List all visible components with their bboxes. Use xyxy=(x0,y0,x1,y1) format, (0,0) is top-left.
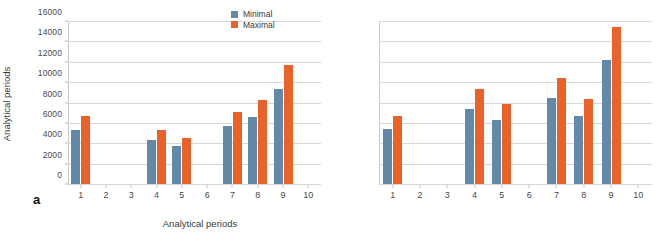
x-tick-mark-1 xyxy=(392,185,393,188)
y-tick-label-16000: 16000 xyxy=(38,7,62,17)
bar-maximal-8 xyxy=(584,99,593,184)
bar-minimal-1 xyxy=(71,130,80,185)
bar-minimal-1 xyxy=(383,129,392,184)
x-tick-label-7: 7 xyxy=(230,190,235,200)
x-tick-mark-7 xyxy=(232,185,233,188)
bar-maximal-4 xyxy=(157,130,166,184)
bar-group-5 xyxy=(488,21,515,184)
y-tick-label-2000: 2000 xyxy=(43,150,62,160)
chart-legend: Minimal Maximal xyxy=(231,10,275,29)
y-tick-label-14000: 14000 xyxy=(38,27,62,37)
bar-maximal-8 xyxy=(258,100,267,184)
bar-maximal-1 xyxy=(81,116,90,184)
x-tick-label-4: 4 xyxy=(154,190,159,200)
x-tick-mark-6 xyxy=(207,185,208,188)
x-axis-label-a: Analytical periods xyxy=(163,218,237,229)
panel-tag-a: a xyxy=(33,192,40,207)
bar-maximal-1 xyxy=(393,116,402,184)
x-tick-mark-9 xyxy=(611,185,612,188)
bar-group-4 xyxy=(461,21,488,184)
x-tick-label-5: 5 xyxy=(499,190,504,200)
x-tick-label-9: 9 xyxy=(281,190,286,200)
x-tick-mark-3 xyxy=(447,185,448,188)
x-tick-mark-2 xyxy=(419,185,420,188)
bar-group-8 xyxy=(570,21,597,184)
x-tick-mark-9 xyxy=(283,185,284,188)
legend-swatch-minimal-icon xyxy=(231,11,238,18)
y-tick-label-12000: 12000 xyxy=(38,48,62,58)
bar-group-5 xyxy=(169,21,194,184)
bar-maximal-9 xyxy=(284,65,293,184)
plot-area-a: 0200040006000800010000120001400016000 12… xyxy=(68,22,321,185)
bar-group-7 xyxy=(220,21,245,184)
x-tick-label-6: 6 xyxy=(527,190,532,200)
x-tick-label-2: 2 xyxy=(103,190,108,200)
x-tick-label-8: 8 xyxy=(581,190,586,200)
x-tick-mark-4 xyxy=(156,185,157,188)
y-tick-label-6000: 6000 xyxy=(43,109,62,119)
bar-group-9 xyxy=(270,21,295,184)
bar-group-10 xyxy=(296,21,321,184)
x-tick-mark-5 xyxy=(181,185,182,188)
legend-swatch-maximal-icon xyxy=(231,21,238,28)
x-tick-label-7: 7 xyxy=(554,190,559,200)
bar-group-6 xyxy=(195,21,220,184)
x-tick-label-9: 9 xyxy=(609,190,614,200)
x-tick-label-4: 4 xyxy=(472,190,477,200)
x-tick-mark-6 xyxy=(529,185,530,188)
bar-group-3 xyxy=(119,21,144,184)
x-tick-mark-3 xyxy=(131,185,132,188)
bar-group-8 xyxy=(245,21,270,184)
figure-container: Analytical periods a 0200040006000800010… xyxy=(0,0,666,242)
bar-minimal-4 xyxy=(465,109,474,184)
x-tick-label-6: 6 xyxy=(205,190,210,200)
bar-minimal-8 xyxy=(574,116,583,184)
x-tick-mark-1 xyxy=(80,185,81,188)
bar-group-6 xyxy=(516,21,543,184)
bar-minimal-8 xyxy=(248,117,257,184)
bar-minimal-5 xyxy=(172,146,181,184)
legend-label-minimal: Minimal xyxy=(243,10,272,19)
x-tick-mark-4 xyxy=(474,185,475,188)
x-tick-label-1: 1 xyxy=(78,190,83,200)
chart-panel-b: b 12345678910 xyxy=(333,0,666,242)
bar-group-1 xyxy=(379,21,406,184)
bar-group-10 xyxy=(625,21,652,184)
bar-group-4 xyxy=(144,21,169,184)
bar-maximal-7 xyxy=(233,112,242,184)
bar-minimal-4 xyxy=(147,140,156,184)
bar-group-2 xyxy=(93,21,118,184)
x-tick-label-5: 5 xyxy=(179,190,184,200)
x-tick-mark-8 xyxy=(257,185,258,188)
x-tick-mark-10 xyxy=(638,185,639,188)
x-tick-mark-8 xyxy=(583,185,584,188)
legend-item-minimal: Minimal xyxy=(231,10,275,19)
bar-maximal-5 xyxy=(502,104,511,184)
x-tick-mark-10 xyxy=(308,185,309,188)
x-tick-label-10: 10 xyxy=(633,190,643,200)
bar-minimal-7 xyxy=(547,98,556,184)
x-tick-label-1: 1 xyxy=(390,190,395,200)
bar-maximal-9 xyxy=(612,27,621,184)
bar-maximal-5 xyxy=(182,138,191,184)
x-tick-mark-2 xyxy=(105,185,106,188)
x-tick-label-3: 3 xyxy=(445,190,450,200)
x-tick-label-3: 3 xyxy=(129,190,134,200)
legend-label-maximal: Maximal xyxy=(243,21,275,30)
chart-panel-a: Analytical periods a 0200040006000800010… xyxy=(0,0,333,242)
bar-group-1 xyxy=(68,21,93,184)
y-tick-label-10000: 10000 xyxy=(38,68,62,78)
bar-group-3 xyxy=(434,21,461,184)
bar-maximal-4 xyxy=(475,89,484,184)
x-tick-label-2: 2 xyxy=(417,190,422,200)
bar-minimal-9 xyxy=(602,60,611,184)
y-tick-label-4000: 4000 xyxy=(43,129,62,139)
y-tick-label-8000: 8000 xyxy=(43,89,62,99)
x-tick-label-10: 10 xyxy=(303,190,313,200)
x-tick-mark-7 xyxy=(556,185,557,188)
bar-maximal-7 xyxy=(557,78,566,184)
y-tick-label-0: 0 xyxy=(57,170,62,180)
bar-minimal-5 xyxy=(492,120,501,184)
bar-group-7 xyxy=(543,21,570,184)
bar-minimal-7 xyxy=(223,126,232,184)
